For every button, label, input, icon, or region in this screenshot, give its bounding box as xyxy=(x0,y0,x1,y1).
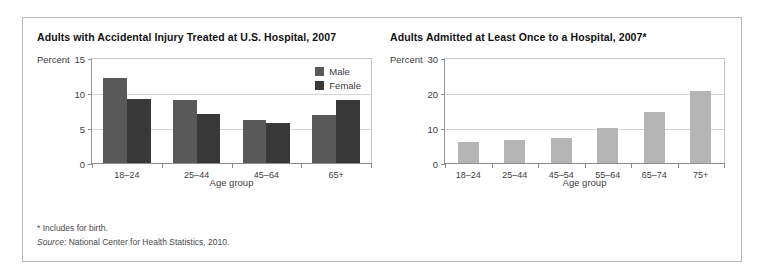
bar-group: 45–54 xyxy=(538,59,585,164)
x-tick-mark xyxy=(92,164,93,168)
y-tick-label: 10 xyxy=(74,88,85,99)
y-tick-label: 30 xyxy=(427,54,438,65)
figure-footnotes: * Includes for birth. Source: National C… xyxy=(37,221,229,249)
x-tick-mark xyxy=(585,164,586,168)
bars-layer: 18–2425–4445–5455–6465–7475+ xyxy=(445,59,724,164)
bar xyxy=(690,91,711,165)
bars-layer: 18–2425–4445–6465+ xyxy=(92,59,371,164)
x-axis-title-accidental-injury: Age group xyxy=(91,177,372,188)
bar xyxy=(197,114,221,164)
x-axis-line-admitted-once xyxy=(444,163,725,164)
plot-wrap-accidental-injury: Percent Male Female 05101518–2425–4445–6… xyxy=(37,58,374,186)
bar xyxy=(127,99,151,164)
chart-panel-admitted-once: Adults Admitted at Least Once to a Hospi… xyxy=(382,18,741,200)
bar xyxy=(312,115,336,164)
bar-group: 25–44 xyxy=(162,59,232,164)
chart-title-accidental-injury: Adults with Accidental Injury Treated at… xyxy=(37,31,336,43)
bar xyxy=(173,100,197,164)
y-tick-label: 15 xyxy=(74,54,85,65)
bar xyxy=(551,138,572,164)
bar xyxy=(644,112,665,165)
x-tick-mark xyxy=(724,164,725,168)
bar-group: 25–44 xyxy=(492,59,539,164)
bar-group: 45–64 xyxy=(232,59,302,164)
y-tick-label: 0 xyxy=(433,159,438,170)
charts-container: Adults with Accidental Injury Treated at… xyxy=(23,18,741,200)
x-axis-title-admitted-once: Age group xyxy=(444,177,725,188)
bar xyxy=(504,140,525,165)
source-prefix: Source: xyxy=(37,237,66,247)
plot-area-admitted-once: 010203018–2425–4445–5455–6465–7475+ xyxy=(444,58,725,164)
source-text: National Center for Health Statistics, 2… xyxy=(69,237,230,247)
bar xyxy=(103,78,127,164)
bar-group: 65–74 xyxy=(631,59,678,164)
x-tick-mark xyxy=(371,164,372,168)
bar-group: 55–64 xyxy=(585,59,632,164)
figure-frame: Adults with Accidental Injury Treated at… xyxy=(22,17,742,262)
x-tick-mark xyxy=(538,164,539,168)
bar-group: 75+ xyxy=(678,59,725,164)
bar-group: 65+ xyxy=(301,59,371,164)
chart-panel-accidental-injury: Adults with Accidental Injury Treated at… xyxy=(23,18,382,200)
x-tick-mark xyxy=(678,164,679,168)
x-tick-mark xyxy=(631,164,632,168)
footnote-source: Source: National Center for Health Stati… xyxy=(37,235,229,249)
bar xyxy=(266,123,290,164)
y-axis-label-admitted-once: Percent xyxy=(390,54,423,65)
footnote-asterisk: * Includes for birth. xyxy=(37,221,229,235)
bar-group: 18–24 xyxy=(92,59,162,164)
y-tick-label: 20 xyxy=(427,88,438,99)
bar xyxy=(336,100,360,164)
y-tick-label: 5 xyxy=(80,123,85,134)
plot-wrap-admitted-once: Percent 010203018–2425–4445–5455–6465–74… xyxy=(390,58,727,186)
x-tick-mark xyxy=(162,164,163,168)
x-tick-mark xyxy=(301,164,302,168)
y-tick-label: 0 xyxy=(80,159,85,170)
y-tick-label: 10 xyxy=(427,123,438,134)
x-tick-mark xyxy=(445,164,446,168)
bar xyxy=(458,142,479,164)
chart-title-admitted-once: Adults Admitted at Least Once to a Hospi… xyxy=(390,31,647,43)
plot-area-accidental-injury: Male Female 05101518–2425–4445–6465+ xyxy=(91,58,372,164)
y-axis-label-accidental-injury: Percent xyxy=(37,54,70,65)
x-tick-mark xyxy=(492,164,493,168)
x-axis-line-accidental-injury xyxy=(91,163,372,164)
bar xyxy=(597,128,618,164)
bar xyxy=(243,120,267,164)
x-tick-mark xyxy=(232,164,233,168)
bar-group: 18–24 xyxy=(445,59,492,164)
